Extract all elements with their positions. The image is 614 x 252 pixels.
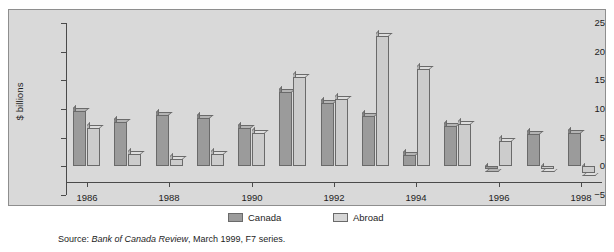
chart-legend: Canada Abroad bbox=[0, 212, 614, 226]
y-tick-label: 20 bbox=[559, 47, 605, 57]
source-publication: Bank of Canada Review bbox=[92, 234, 189, 244]
x-tick-label: 1990 bbox=[232, 192, 272, 203]
bar-abroad-1988 bbox=[170, 159, 183, 166]
source-suffix: , March 1999, F7 series. bbox=[188, 234, 285, 244]
chart-figure: Chart 4: Net new equity issued by Canadi… bbox=[0, 0, 614, 252]
bar-front-face bbox=[582, 166, 595, 172]
y-tick-mark bbox=[61, 166, 66, 167]
bar-canada-1998 bbox=[568, 133, 581, 167]
bar-front-face bbox=[197, 118, 210, 167]
source-prefix: Source: bbox=[58, 234, 92, 244]
bar-front-face bbox=[499, 141, 512, 167]
bar-abroad-1997 bbox=[541, 166, 554, 169]
bar-front-face bbox=[458, 124, 471, 166]
legend-label-abroad: Abroad bbox=[353, 212, 384, 223]
y-tick-mark bbox=[61, 109, 66, 110]
bar-front-face bbox=[170, 159, 183, 166]
bar-front-face bbox=[321, 103, 334, 166]
bar-abroad-1991 bbox=[293, 77, 306, 166]
x-tick-mark bbox=[87, 183, 88, 187]
bar-front-face bbox=[335, 99, 348, 166]
plot-area: $ billions 2520151050−5 1986198819901992… bbox=[9, 10, 605, 205]
x-tick-mark bbox=[499, 183, 500, 187]
x-tick-mark bbox=[169, 183, 170, 187]
bar-abroad-1986 bbox=[87, 128, 100, 166]
bar-front-face bbox=[293, 77, 306, 166]
bar-abroad-1996 bbox=[499, 141, 512, 167]
bar-abroad-1990 bbox=[252, 133, 265, 167]
y-tick-label: 25 bbox=[559, 18, 605, 28]
bar-canada-1994 bbox=[403, 155, 416, 166]
bar-front-face bbox=[211, 154, 224, 166]
bar-abroad-1995 bbox=[458, 124, 471, 166]
x-tick-label: 1994 bbox=[396, 192, 436, 203]
bar-front-face bbox=[114, 122, 127, 167]
bar-abroad-1989 bbox=[211, 154, 224, 166]
y-axis-line bbox=[66, 23, 67, 195]
bar-front-face bbox=[568, 133, 581, 167]
y-tick-mark bbox=[61, 52, 66, 53]
bar-top-face bbox=[485, 169, 502, 172]
x-tick-mark bbox=[416, 183, 417, 187]
bar-front-face bbox=[485, 166, 498, 169]
y-tick-mark bbox=[61, 23, 66, 24]
bar-front-face bbox=[156, 115, 169, 167]
bar-abroad-1998 bbox=[582, 166, 595, 172]
bar-canada-1986 bbox=[73, 111, 86, 166]
bar-canada-1995 bbox=[444, 126, 457, 167]
bar-front-face bbox=[444, 126, 457, 167]
legend-item-abroad: Abroad bbox=[333, 212, 384, 224]
bar-canada-1991 bbox=[279, 92, 292, 167]
bar-front-face bbox=[252, 133, 265, 167]
bar-canada-1997 bbox=[527, 134, 540, 167]
bar-front-face bbox=[376, 36, 389, 167]
bar-canada-1988 bbox=[156, 115, 169, 167]
legend-item-canada: Canada bbox=[228, 212, 281, 224]
bar-front-face bbox=[417, 69, 430, 166]
bar-front-face bbox=[238, 128, 251, 166]
y-tick-mark bbox=[61, 138, 66, 139]
x-tick-label: 1998 bbox=[561, 192, 601, 203]
bar-abroad-1994 bbox=[417, 69, 430, 166]
y-axis-label: $ billions bbox=[14, 57, 25, 147]
x-tick-label: 1996 bbox=[479, 192, 519, 203]
bar-front-face bbox=[128, 154, 141, 167]
x-tick-label: 1992 bbox=[314, 192, 354, 203]
bar-front-face bbox=[87, 128, 100, 166]
x-tick-mark bbox=[581, 183, 582, 187]
bar-canada-1989 bbox=[197, 118, 210, 167]
source-note: Source: Bank of Canada Review, March 199… bbox=[58, 234, 285, 244]
chart-plot-panel: $ billions 2520151050−5 1986198819901992… bbox=[8, 9, 606, 206]
y-tick-label: 5 bbox=[559, 133, 605, 143]
bar-canada-1996 bbox=[485, 166, 498, 169]
x-tick-mark bbox=[334, 183, 335, 187]
x-tick-label: 1986 bbox=[67, 192, 107, 203]
y-tick-mark bbox=[61, 195, 66, 196]
x-tick-label: 1988 bbox=[149, 192, 189, 203]
legend-swatch-canada bbox=[228, 213, 243, 222]
x-tick-mark bbox=[252, 183, 253, 187]
y-tick-label: 10 bbox=[559, 104, 605, 114]
bar-top-face bbox=[582, 173, 599, 176]
bar-front-face bbox=[403, 155, 416, 166]
bar-front-face bbox=[279, 92, 292, 167]
bar-abroad-1993 bbox=[376, 36, 389, 167]
bar-canada-1990 bbox=[238, 128, 251, 166]
legend-swatch-abroad bbox=[333, 213, 348, 222]
bar-top-face bbox=[541, 169, 558, 172]
bar-canada-1993 bbox=[362, 116, 375, 166]
bar-front-face bbox=[541, 166, 554, 169]
bar-front-face bbox=[527, 134, 540, 167]
bar-canada-1987 bbox=[114, 122, 127, 167]
bar-front-face bbox=[362, 116, 375, 166]
y-tick-label: 15 bbox=[559, 75, 605, 85]
bar-abroad-1992 bbox=[335, 99, 348, 166]
legend-label-canada: Canada bbox=[248, 212, 281, 223]
bar-abroad-1987 bbox=[128, 154, 141, 167]
bar-canada-1992 bbox=[321, 103, 334, 166]
y-tick-mark bbox=[61, 80, 66, 81]
bar-front-face bbox=[73, 111, 86, 166]
